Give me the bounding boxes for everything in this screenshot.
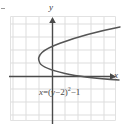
parabola-figure: y x x=(y−2)2−1: [0, 0, 124, 129]
parabola-curve: [39, 27, 120, 80]
x-axis-label: x: [114, 71, 118, 80]
equation-label: x=(y−2)2−1: [39, 86, 80, 97]
y-axis-label: y: [49, 3, 53, 12]
equation-k-value: 1: [76, 87, 81, 97]
graph-canvas: [0, 0, 124, 129]
